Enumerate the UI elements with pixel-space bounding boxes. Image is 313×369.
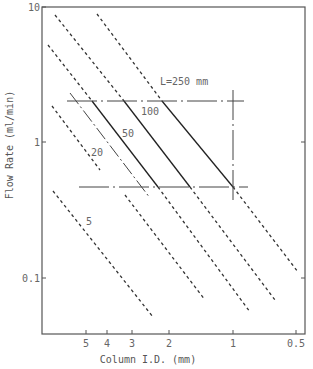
x-axis-title: Column I.D. (mm) [100,354,196,365]
label-20: 20 [91,147,103,158]
x-tick-2: 2 [166,338,172,349]
y-tick-0-1: 0.1 [22,273,40,284]
label-50: 50 [122,128,134,139]
plot-frame [42,7,305,334]
x-tick-4: 4 [104,338,110,349]
label-100: 100 [141,106,159,117]
y-axis-title: Flow Rate (ml/min) [4,91,15,199]
y-tick-1: 1 [34,137,40,148]
x-tick-0-5: 0.5 [287,338,305,349]
x-tick-1: 1 [230,338,236,349]
label-5: 5 [86,216,92,227]
flow-rate-chart: 10 1 0.1 5 4 3 2 1 0.5 Column I.D. (mm) … [0,0,313,369]
label-l250: L=250 mm [160,76,208,87]
y-tick-10: 10 [28,2,40,13]
solid-lines [92,101,233,187]
x-tick-5: 5 [83,338,89,349]
x-tick-3: 3 [129,338,135,349]
